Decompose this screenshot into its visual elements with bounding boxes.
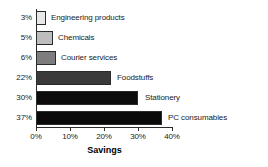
bar-value-label: 5% (0, 32, 32, 43)
bar-value-label: 3% (0, 12, 32, 23)
bar-category-label: Chemicals (58, 32, 94, 43)
x-axis-tick-label: 20% (91, 131, 117, 142)
bar-row[interactable]: 5% Chemicals (0, 29, 268, 49)
bar-row[interactable]: 3% Engineering products (0, 9, 268, 29)
bar-courier-services[interactable] (36, 51, 56, 65)
bar-value-label: 22% (0, 72, 32, 83)
bar-chemicals[interactable] (36, 31, 53, 45)
plot-area: 3% Engineering products 5% Chemicals 6% … (0, 9, 268, 127)
x-axis-tick-label: 10% (57, 131, 83, 142)
bar-category-label: PC consumables (168, 112, 227, 123)
bar-pc-consumables[interactable] (36, 111, 162, 125)
x-axis-tick-label: 0% (23, 131, 49, 142)
bar-category-label: Courier services (61, 52, 117, 63)
x-axis-title: Savings (36, 144, 173, 156)
bar-row[interactable]: 37% PC consumables (0, 109, 268, 129)
bar-row[interactable]: 30% Stationery (0, 89, 268, 109)
bar-engineering-products[interactable] (36, 11, 46, 25)
bar-value-label: 30% (0, 92, 32, 103)
bar-value-label: 37% (0, 112, 32, 123)
y-axis-line (36, 9, 37, 127)
bar-category-label: Stationery (145, 92, 180, 103)
x-axis-tick-label: 30% (125, 131, 151, 142)
bar-foodstuffs[interactable] (36, 71, 111, 85)
bar-row[interactable]: 6% Courier services (0, 49, 268, 69)
bar-stationery[interactable] (36, 91, 138, 105)
savings-bar-chart: 3% Engineering products 5% Chemicals 6% … (0, 0, 268, 167)
bar-row[interactable]: 22% Foodstuffs (0, 69, 268, 89)
x-axis-tick-label: 40% (159, 131, 185, 142)
bar-category-label: Foodstuffs (117, 72, 153, 83)
bar-value-label: 6% (0, 52, 32, 63)
bar-category-label: Engineering products (51, 12, 125, 23)
